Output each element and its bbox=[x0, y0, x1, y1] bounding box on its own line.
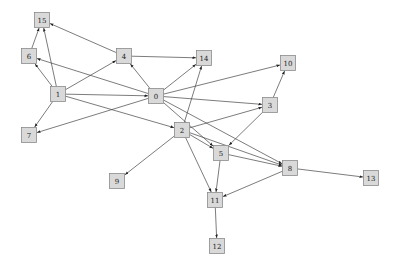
edge-8-to-13 bbox=[298, 169, 364, 177]
edge-0-to-4 bbox=[130, 64, 150, 89]
edge-2-to-11 bbox=[186, 138, 212, 193]
node-9: 9 bbox=[110, 174, 125, 189]
edge-4-to-15 bbox=[50, 24, 117, 53]
directed-graph: 0123456789101112131415 bbox=[0, 0, 400, 272]
node-12: 12 bbox=[210, 239, 225, 254]
node-label: 6 bbox=[27, 53, 32, 61]
node-label: 15 bbox=[38, 17, 47, 25]
node-label: 14 bbox=[200, 55, 209, 63]
edge-1-to-6 bbox=[35, 64, 52, 87]
edge-0-to-3 bbox=[164, 97, 263, 105]
edge-1-to-7 bbox=[35, 102, 53, 128]
node-label: 12 bbox=[213, 243, 222, 251]
node-label: 1 bbox=[56, 91, 60, 99]
edge-0-to-14 bbox=[164, 64, 197, 90]
node-8: 8 bbox=[283, 161, 298, 176]
edge-2-to-9 bbox=[125, 136, 175, 175]
node-label: 5 bbox=[219, 150, 223, 158]
node-1: 1 bbox=[51, 87, 66, 102]
edge-5-to-11 bbox=[216, 161, 220, 193]
node-label: 8 bbox=[288, 165, 292, 173]
edge-4-to-14 bbox=[132, 56, 197, 58]
edge-3-to-5 bbox=[229, 112, 263, 145]
node-0: 0 bbox=[149, 89, 164, 104]
edge-3-to-10 bbox=[273, 71, 284, 98]
node-7: 7 bbox=[22, 128, 37, 143]
node-layer: 0123456789101112131415 bbox=[22, 13, 379, 254]
node-2: 2 bbox=[175, 123, 190, 138]
edge-2-to-3 bbox=[190, 107, 263, 128]
node-label: 10 bbox=[284, 60, 293, 68]
node-label: 13 bbox=[367, 175, 376, 183]
node-13: 13 bbox=[364, 171, 379, 186]
node-5: 5 bbox=[214, 146, 229, 161]
edge-8-to-11 bbox=[223, 171, 283, 196]
edge-11-to-12 bbox=[215, 208, 216, 239]
node-label: 11 bbox=[211, 197, 220, 205]
node-label: 4 bbox=[122, 53, 127, 61]
node-3: 3 bbox=[263, 98, 278, 113]
edge-1-to-0 bbox=[66, 94, 149, 96]
node-6: 6 bbox=[22, 49, 37, 64]
node-4: 4 bbox=[117, 49, 132, 64]
edge-0-to-10 bbox=[164, 65, 281, 94]
edge-2-to-8 bbox=[190, 133, 283, 166]
edge-5-to-8 bbox=[229, 155, 283, 167]
node-label: 0 bbox=[154, 93, 158, 101]
node-label: 2 bbox=[180, 127, 184, 135]
node-label: 9 bbox=[115, 178, 119, 186]
node-label: 3 bbox=[268, 102, 272, 110]
node-14: 14 bbox=[197, 51, 212, 66]
node-11: 11 bbox=[208, 193, 223, 208]
edge-6-to-15 bbox=[32, 28, 39, 49]
node-10: 10 bbox=[281, 56, 296, 71]
node-label: 7 bbox=[27, 132, 31, 140]
node-15: 15 bbox=[35, 13, 50, 28]
edge-2-to-14 bbox=[184, 66, 201, 123]
